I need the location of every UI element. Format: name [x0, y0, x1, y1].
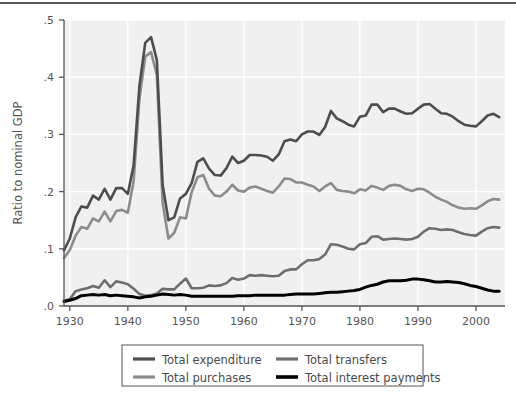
legend-label-total-transfers: Total transfers	[304, 353, 387, 367]
legend: Total expenditureTotal purchasesTotal tr…	[122, 345, 441, 386]
x-axis-tick-labels: 19301940195019601970198019902000	[56, 315, 490, 328]
y-axis-tick-labels: .0.1.2.3.4.5	[44, 14, 55, 313]
legend-label-total-purchases: Total purchases	[161, 371, 251, 385]
x-tick-label: 1990	[404, 315, 432, 328]
y-tick-label: .5	[44, 14, 55, 27]
x-tick-label: 1950	[172, 315, 200, 328]
plot-area-background	[64, 20, 505, 306]
legend-label-total-interest-payments: Total interest payments	[304, 371, 441, 385]
y-tick-label: .0	[44, 300, 55, 313]
y-tick-label: .2	[44, 186, 55, 199]
x-tick-label: 1960	[230, 315, 258, 328]
x-tick-label: 1940	[114, 315, 142, 328]
legend-label-total-expenditure: Total expenditure	[161, 353, 262, 367]
x-tick-label: 1980	[346, 315, 374, 328]
y-tick-label: .4	[44, 71, 55, 84]
gdp-ratio-line-chart: Ratio to nominal GDP 1930194019501960197…	[0, 0, 516, 401]
x-tick-label: 2000	[462, 315, 490, 328]
x-tick-label: 1930	[56, 315, 84, 328]
chart-figure: Ratio to nominal GDP 1930194019501960197…	[0, 0, 516, 401]
y-tick-label: .3	[44, 128, 55, 141]
y-tick-label: .1	[44, 243, 55, 256]
x-tick-label: 1970	[288, 315, 316, 328]
y-axis-title: Ratio to nominal GDP	[11, 101, 25, 224]
